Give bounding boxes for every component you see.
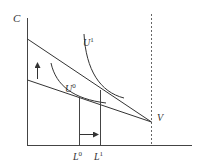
u1-label: U1 <box>83 36 94 48</box>
v-label: V <box>157 112 165 123</box>
l0-label: L0 <box>72 150 83 162</box>
budget-line-lower <box>28 80 152 122</box>
l1-label: L1 <box>93 150 104 162</box>
budget-line-upper <box>28 39 152 122</box>
y-axis-label: C <box>13 12 21 24</box>
labor-leisure-diagram: C U1 U0 V L0 L1 <box>0 0 200 167</box>
u0-label: U0 <box>65 82 76 94</box>
